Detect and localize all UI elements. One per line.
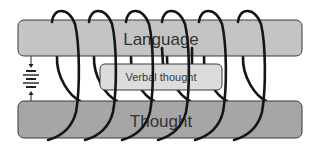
language-bar: Language <box>18 20 302 56</box>
verbal-thought-box: Verbal thought <box>100 64 222 90</box>
language-thought-coil-diagram: Language Thought Verbal thought <box>0 0 322 150</box>
verbal-thought-label: Verbal thought <box>126 71 197 83</box>
battery-icon <box>23 56 39 101</box>
